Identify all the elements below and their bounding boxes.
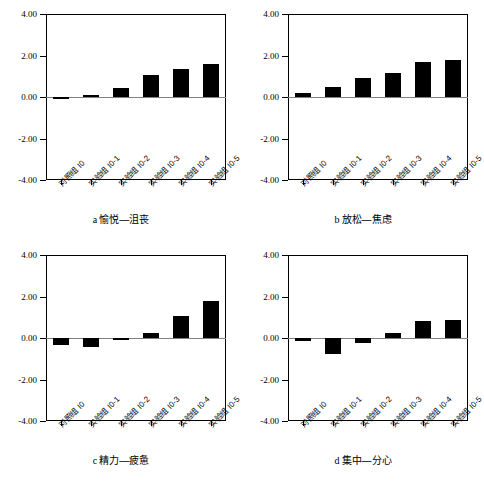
bar bbox=[113, 338, 129, 340]
y-axis-tick-label: -2.00 bbox=[18, 375, 37, 384]
zero-baseline-a bbox=[46, 97, 226, 98]
y-axis-tick-label: 4.00 bbox=[263, 10, 279, 19]
bar bbox=[445, 320, 461, 338]
bar bbox=[143, 333, 159, 338]
panel-letter-b: b bbox=[335, 214, 340, 225]
bar bbox=[415, 321, 431, 338]
y-axis-tick bbox=[282, 338, 288, 339]
y-axis-tick bbox=[282, 97, 288, 98]
y-axis-tick bbox=[40, 139, 46, 140]
zero-baseline-c bbox=[46, 338, 226, 339]
y-axis-tick-label: -4.00 bbox=[260, 417, 279, 426]
y-axis-tick-label: 2.00 bbox=[263, 51, 279, 60]
bar bbox=[173, 316, 189, 338]
bar bbox=[445, 60, 461, 97]
y-axis-tick bbox=[40, 255, 46, 256]
bar bbox=[113, 88, 129, 97]
panel-caption-text-a: 愉悦—沮丧 bbox=[99, 214, 149, 225]
y-axis-tick-label: -4.00 bbox=[18, 417, 37, 426]
panel-letter-a: a bbox=[93, 214, 97, 225]
bar bbox=[385, 333, 401, 338]
y-axis-tick-label: 4.00 bbox=[21, 251, 37, 260]
y-axis-tick-label: 2.00 bbox=[21, 51, 37, 60]
bar bbox=[83, 338, 99, 347]
y-axis-tick bbox=[282, 297, 288, 298]
chart-panel-c: 4.002.000.00-2.00-4.00 对照组 I0实验组 I0-1实验组… bbox=[0, 241, 242, 482]
y-axis-tick-label: 2.00 bbox=[263, 292, 279, 301]
y-axis-tick bbox=[282, 380, 288, 381]
bar bbox=[415, 62, 431, 97]
zero-baseline-b bbox=[288, 97, 468, 98]
y-axis-tick bbox=[40, 14, 46, 15]
y-axis-tick bbox=[282, 255, 288, 256]
panel-caption-d: d集中—分心 bbox=[242, 455, 484, 467]
y-axis-tick bbox=[282, 56, 288, 57]
panel-caption-a: a愉悦—沮丧 bbox=[0, 214, 242, 226]
y-axis-tick bbox=[40, 297, 46, 298]
y-axis-tick bbox=[282, 421, 288, 422]
bar bbox=[203, 301, 219, 338]
zero-baseline-d bbox=[288, 338, 468, 339]
plot-area-c: 4.002.000.00-2.00-4.00 bbox=[46, 255, 226, 421]
bar bbox=[203, 64, 219, 97]
panel-caption-text-b: 放松—焦虑 bbox=[342, 214, 392, 225]
panel-caption-c: c精力—疲惫 bbox=[0, 455, 242, 467]
chart-panel-a: 4.002.000.00-2.00-4.00 对照组 I0实验组 I0-1实验组… bbox=[0, 0, 242, 241]
y-axis-tick-label: 0.00 bbox=[263, 93, 279, 102]
y-axis-tick bbox=[40, 380, 46, 381]
y-axis-tick-label: 0.00 bbox=[263, 334, 279, 343]
plot-area-d: 4.002.000.00-2.00-4.00 bbox=[288, 255, 468, 421]
chart-panel-b: 4.002.000.00-2.00-4.00 对照组 I0实验组 I0-1实验组… bbox=[242, 0, 484, 241]
y-axis-tick-label: -2.00 bbox=[260, 375, 279, 384]
bar bbox=[295, 93, 311, 97]
plot-area-b: 4.002.000.00-2.00-4.00 bbox=[288, 14, 468, 180]
bar bbox=[325, 87, 341, 97]
bar bbox=[53, 338, 69, 345]
y-axis-tick bbox=[282, 14, 288, 15]
y-axis-tick-label: 0.00 bbox=[21, 334, 37, 343]
y-axis-tick bbox=[40, 180, 46, 181]
bar bbox=[53, 97, 69, 99]
panel-caption-text-d: 集中—分心 bbox=[342, 455, 392, 466]
y-axis-tick-label: 2.00 bbox=[21, 292, 37, 301]
y-axis-tick bbox=[282, 180, 288, 181]
figure-root: 4.002.000.00-2.00-4.00 对照组 I0实验组 I0-1实验组… bbox=[0, 0, 484, 482]
bar bbox=[385, 73, 401, 97]
plot-area-a: 4.002.000.00-2.00-4.00 bbox=[46, 14, 226, 180]
y-axis-tick bbox=[40, 97, 46, 98]
y-axis-tick bbox=[40, 56, 46, 57]
y-axis-tick-label: 4.00 bbox=[263, 251, 279, 260]
bar bbox=[295, 338, 311, 341]
chart-panel-d: 4.002.000.00-2.00-4.00 对照组 I0实验组 I0-1实验组… bbox=[242, 241, 484, 482]
y-axis-tick-label: -2.00 bbox=[18, 134, 37, 143]
y-axis-tick-label: -4.00 bbox=[260, 176, 279, 185]
y-axis-tick-label: -4.00 bbox=[18, 176, 37, 185]
bar bbox=[355, 338, 371, 343]
bar bbox=[83, 95, 99, 97]
y-axis-tick-label: 4.00 bbox=[21, 10, 37, 19]
bar bbox=[325, 338, 341, 354]
y-axis-tick bbox=[40, 421, 46, 422]
panel-letter-c: c bbox=[93, 455, 97, 466]
panel-caption-b: b放松—焦虑 bbox=[242, 214, 484, 226]
bar bbox=[143, 75, 159, 97]
y-axis-tick bbox=[282, 139, 288, 140]
panel-caption-text-c: 精力—疲惫 bbox=[99, 455, 149, 466]
y-axis-tick-label: 0.00 bbox=[21, 93, 37, 102]
bar bbox=[173, 69, 189, 97]
y-axis-tick bbox=[40, 338, 46, 339]
y-axis-tick-label: -2.00 bbox=[260, 134, 279, 143]
panel-letter-d: d bbox=[335, 455, 340, 466]
bar bbox=[355, 78, 371, 97]
